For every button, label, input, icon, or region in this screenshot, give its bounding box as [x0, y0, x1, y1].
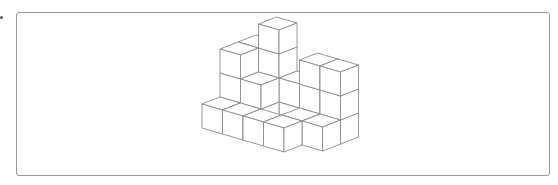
cube-stack-diagram: [0, 0, 558, 185]
